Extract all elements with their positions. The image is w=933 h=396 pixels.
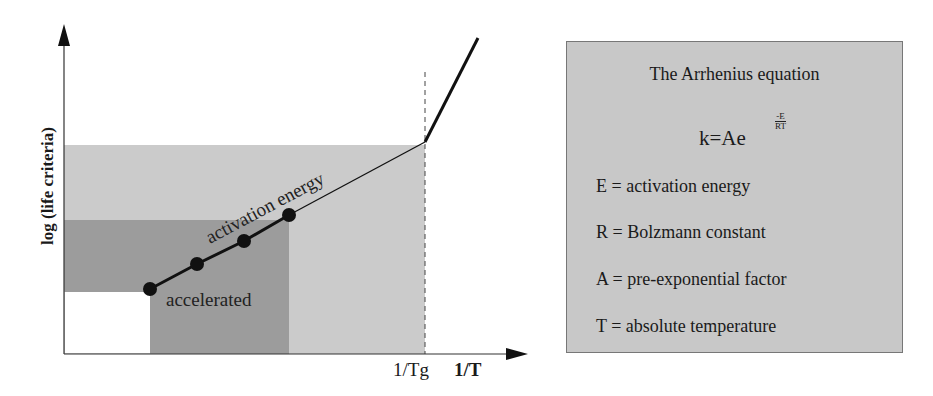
arrhenius-equation: k=Ae -E RT [699, 126, 746, 151]
exponent-denominator: RT [775, 122, 786, 131]
above-tg-line [425, 38, 478, 142]
y-axis-arrow-icon [58, 24, 70, 46]
accelerated-label: accelerated [166, 289, 252, 310]
equation-panel: The Arrhenius equation k=Ae -E RT E = ac… [566, 41, 903, 353]
x-tick-tg: 1/Tg [393, 359, 429, 381]
equation-title: The Arrhenius equation [567, 64, 902, 85]
x-axis-arrow-icon [506, 348, 528, 360]
data-point [143, 282, 157, 296]
legend-item-e: E = activation energy [596, 176, 750, 197]
plot-canvas: activation energy accelerated [0, 0, 540, 396]
accelerated-region-upper [64, 220, 289, 292]
legend-item-a: A = pre-exponential factor [596, 269, 787, 290]
white-corner [65, 292, 150, 353]
data-point [190, 257, 204, 271]
x-axis-label: 1/T [454, 359, 481, 381]
data-point [282, 208, 296, 222]
equation-base: k=Ae [699, 126, 746, 150]
arrhenius-plot: activation energy accelerated log (life … [0, 0, 540, 396]
data-point [237, 234, 251, 248]
equation-exponent: -E RT [775, 112, 786, 131]
y-axis-label: log (life criteria) [38, 86, 58, 286]
legend-item-t: T = absolute temperature [596, 316, 776, 337]
legend-item-r: R = Bolzmann constant [596, 222, 766, 243]
